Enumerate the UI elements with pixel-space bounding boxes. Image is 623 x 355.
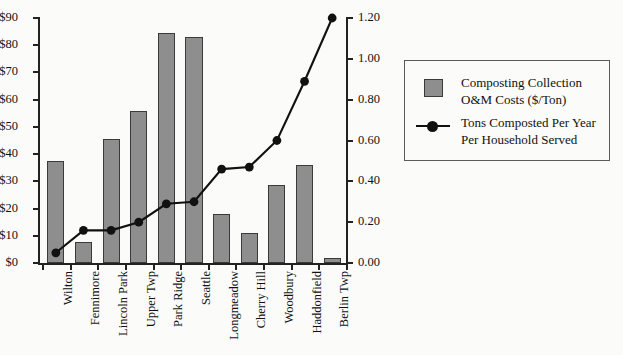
category-label: Berlin Twp bbox=[337, 271, 352, 327]
line-marker: Fennimore: 0.16 bbox=[79, 226, 88, 235]
category-tick bbox=[153, 263, 155, 270]
chart-container: $0$10$20$30$40$50$60$70$80$90 0.000.200.… bbox=[0, 0, 623, 355]
line-series-layer: Wilton: 0.05Fennimore: 0.16Lincoln Park:… bbox=[38, 18, 348, 265]
category-tick bbox=[42, 263, 44, 270]
right-tick-label: 0.60 bbox=[358, 134, 380, 146]
left-tick-label: $60 bbox=[0, 93, 18, 105]
legend-label-bar: Composting Collection O&M Costs ($/Ton) bbox=[461, 75, 582, 108]
plot-area: $0$10$20$30$40$50$60$70$80$90 0.000.200.… bbox=[38, 18, 348, 265]
category-tick bbox=[208, 263, 210, 270]
legend-label-line-line1: Tons Composted Per Year bbox=[461, 115, 596, 132]
legend-line-dot bbox=[427, 121, 438, 132]
line-marker: Upper Twp: 0.2 bbox=[134, 218, 143, 227]
legend-label-line: Tons Composted Per Year Per Household Se… bbox=[461, 115, 596, 148]
line-marker: Longmeadow: 0.46 bbox=[217, 165, 226, 174]
line-marker: Cherry Hill: 0.47 bbox=[245, 163, 254, 172]
left-tick-label: $0 bbox=[6, 256, 19, 268]
category-tick bbox=[318, 263, 320, 270]
category-label: Fennimore bbox=[88, 271, 103, 325]
right-tick-label: 0.80 bbox=[358, 93, 380, 105]
category-label: Woodbury bbox=[282, 271, 297, 323]
chart-legend: Composting Collection O&M Costs ($/Ton) … bbox=[404, 60, 610, 161]
left-tick-label: $70 bbox=[0, 65, 18, 77]
category-tick bbox=[180, 263, 182, 270]
category-label: Upper Twp bbox=[144, 271, 159, 327]
line-marker: Woodbury: 0.6 bbox=[273, 136, 282, 145]
line-marker: Berlin Twp: 1.2 bbox=[328, 14, 337, 23]
left-tick-label: $50 bbox=[0, 120, 18, 132]
category-label: Cherry Hill bbox=[254, 271, 269, 328]
left-tick-label: $40 bbox=[0, 147, 18, 159]
category-label: Wilton bbox=[61, 271, 76, 305]
category-label: Seattle bbox=[199, 271, 214, 305]
category-label: Lincoln Park bbox=[116, 271, 131, 336]
category-label: Haddonfield bbox=[310, 271, 325, 333]
category-tick bbox=[70, 263, 72, 270]
left-tick-label: $30 bbox=[0, 174, 18, 186]
category-tick bbox=[291, 263, 293, 270]
category-tick bbox=[97, 263, 99, 270]
left-tick-label: $90 bbox=[0, 11, 18, 23]
category-label: Park Ridge bbox=[171, 271, 186, 327]
category-tick bbox=[263, 263, 265, 270]
bar-swatch-icon bbox=[424, 79, 443, 97]
category-tick bbox=[346, 263, 348, 270]
legend-entry-line: Tons Composted Per Year Per Household Se… bbox=[405, 115, 609, 148]
legend-swatch-wrap-line bbox=[405, 115, 461, 133]
line-marker: Park Ridge: 0.29 bbox=[162, 199, 171, 208]
category-tick bbox=[125, 263, 127, 270]
line-marker: Haddonfield: 0.89 bbox=[300, 77, 309, 86]
line-path bbox=[56, 18, 332, 253]
line-marker: Wilton: 0.05 bbox=[51, 248, 60, 257]
legend-swatch-wrap-bar bbox=[405, 75, 461, 97]
right-tick-label: 0.00 bbox=[358, 256, 380, 268]
right-tick-label: 1.20 bbox=[358, 11, 380, 23]
legend-label-bar-line1: Composting Collection bbox=[461, 75, 582, 92]
right-tick-label: 1.00 bbox=[358, 52, 380, 64]
line-marker: Lincoln Park: 0.16 bbox=[107, 226, 116, 235]
legend-label-line-line2: Per Household Served bbox=[461, 132, 596, 149]
left-tick-label: $80 bbox=[0, 38, 18, 50]
right-tick-label: 0.20 bbox=[358, 215, 380, 227]
line-marker-icon bbox=[416, 119, 450, 133]
category-label: Longmeadow bbox=[227, 271, 242, 340]
right-tick-label: 0.40 bbox=[358, 174, 380, 186]
legend-entry-bar: Composting Collection O&M Costs ($/Ton) bbox=[405, 75, 609, 108]
left-tick-label: $10 bbox=[0, 229, 18, 241]
category-tick bbox=[235, 263, 237, 270]
left-tick-label: $20 bbox=[0, 202, 18, 214]
legend-label-bar-line2: O&M Costs ($/Ton) bbox=[461, 92, 582, 109]
line-marker: Seattle: 0.3 bbox=[190, 197, 199, 206]
